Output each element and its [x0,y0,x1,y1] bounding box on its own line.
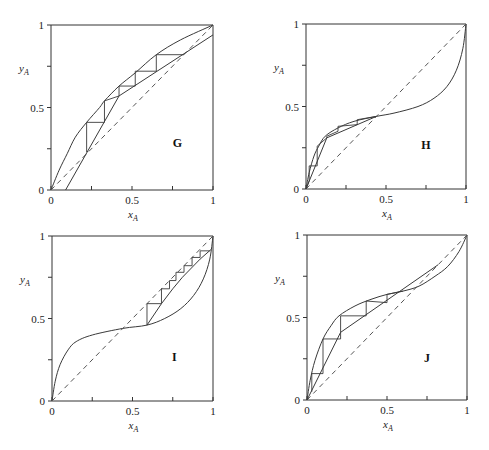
y-axis-label: yA [274,272,285,287]
panel-i: 00.5100.51xAyAI [19,230,216,434]
y-tick-label: 0.5 [30,102,44,114]
panel-j: 00.5100.51xAyAJ [274,229,470,433]
stages-line [87,55,184,152]
y-axis-label: yA [18,62,29,77]
y-tick-label: 1 [294,18,300,30]
x-tick-label: 0 [304,404,310,416]
x-axis-label: xA [381,207,392,222]
x-tick-label: 0 [49,405,55,417]
y-tick-label: 0 [295,394,301,406]
y-tick-label: 1 [39,19,45,31]
figure-canvas: 00.5100.51xAyAG00.5100.51xAyAH00.5100.51… [0,0,489,450]
x-tick-label: 0.5 [126,405,140,417]
y-tick-label: 0 [294,183,300,195]
x-axis-label: xA [128,419,139,434]
x-axis-label: xA [127,208,138,223]
stages-line [312,291,403,392]
panel-label: I [172,350,177,364]
x-tick-label: 0 [48,194,54,206]
equilibrium-line [51,25,213,190]
operating-line-line [147,249,211,325]
y-tick-label: 0.5 [286,312,300,324]
y-tick-label: 0.5 [285,101,299,113]
equilibrium-line [307,235,467,400]
y-tick-label: 0 [40,395,46,407]
panel-h: 00.5100.51xAyAH [273,18,469,222]
x-tick-label: 1 [210,194,216,206]
x-tick-label: 0 [303,193,309,205]
x-tick-label: 0.5 [380,404,394,416]
x-tick-label: 1 [464,404,470,416]
operating-line-line [66,35,213,190]
panel-label: H [421,138,431,152]
equilibrium-line [52,236,213,401]
x-tick-label: 0.5 [125,194,139,206]
y-axis-label: yA [19,273,30,288]
x-tick-label: 0.5 [379,193,393,205]
y-tick-label: 0.5 [31,313,45,325]
y-axis-label: yA [273,61,284,76]
stages-line [147,251,210,325]
x-tick-label: 1 [210,405,216,417]
equilibrium-line [306,24,466,189]
panel-label: G [173,136,182,150]
x-tick-label: 1 [463,193,469,205]
diagonal-line [51,25,213,190]
y-tick-label: 0 [39,184,45,196]
y-tick-label: 1 [295,229,301,241]
x-axis-label: xA [382,418,393,433]
diagonal-line [52,236,213,401]
panel-g: 00.5100.51xAyAG [18,19,216,223]
panel-label: J [424,351,430,365]
diagonal-line [306,24,466,189]
y-tick-label: 1 [40,230,46,242]
diagonal-line [307,235,467,400]
